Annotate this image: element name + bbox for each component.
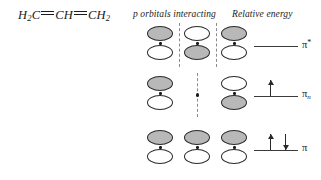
p-orbital — [220, 128, 248, 168]
lobe-bottom — [221, 149, 247, 164]
heading-orbitals-interacting: p orbitals interacting — [133, 9, 216, 19]
lobe-top — [221, 76, 247, 91]
energy-level-pi-star: π* — [254, 24, 321, 66]
heading-relative-energy: Relative energy — [232, 9, 293, 19]
electron-arrow-down — [282, 134, 289, 150]
orbital-row-pi-nonbonding — [146, 74, 258, 116]
lobe-bottom — [184, 45, 210, 60]
energy-level-line — [254, 150, 298, 151]
energy-level-label: π — [302, 142, 307, 153]
arrow-head — [268, 80, 274, 85]
lobe-top — [221, 130, 247, 145]
node-center-dot — [196, 93, 200, 97]
lobe-top — [184, 26, 210, 41]
orbital-rows — [146, 24, 258, 174]
lobe-bottom — [147, 45, 173, 60]
p-orbital — [146, 24, 174, 64]
lobe-bottom — [147, 149, 173, 164]
p-orbital — [183, 24, 211, 64]
lobe-bottom — [147, 95, 173, 110]
nodal-plane-line — [216, 23, 217, 67]
lobe-bottom — [221, 95, 247, 110]
energy-level-pi-nonbonding: πn — [254, 74, 321, 116]
orbital-row-pi-bonding — [146, 128, 258, 170]
energy-level-line — [254, 46, 298, 47]
energy-level-label: π* — [302, 38, 311, 50]
lobe-top — [221, 26, 247, 41]
energy-level-pi-bonding: π — [254, 128, 321, 170]
energy-level-line — [254, 96, 298, 97]
lobe-top — [147, 130, 173, 145]
double-bond-dash-2 — [74, 10, 87, 16]
p-orbital — [220, 24, 248, 64]
lobe-top — [147, 76, 173, 91]
arrow-head — [268, 134, 274, 139]
formula-h2c: H2C — [18, 8, 40, 22]
energy-level-label: πn — [302, 88, 311, 101]
formula-ch: CH — [55, 8, 73, 22]
lobe-top — [147, 26, 173, 41]
mo-diagram-figure: H2CCHCH2 p orbitals interacting Relative… — [0, 0, 321, 180]
molecular-formula: H2CCHCH2 — [18, 8, 110, 23]
formula-ch2: CH2 — [88, 8, 110, 22]
orbital-row-pi-star — [146, 24, 258, 66]
energy-levels: π* πn π — [254, 24, 321, 174]
lobe-bottom — [184, 149, 210, 164]
double-bond-dash-1 — [41, 10, 54, 16]
p-orbital — [183, 128, 211, 168]
lobe-top — [184, 130, 210, 145]
p-orbital — [146, 128, 174, 168]
nodal-plane-line — [179, 23, 180, 67]
electron-arrow-up — [267, 80, 274, 96]
lobe-bottom — [221, 45, 247, 60]
p-orbital — [220, 74, 248, 114]
p-orbital — [146, 74, 174, 114]
electron-arrow-up — [267, 134, 274, 150]
